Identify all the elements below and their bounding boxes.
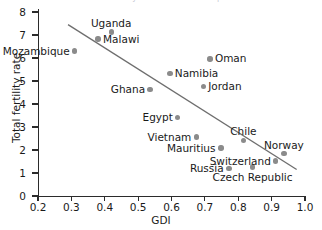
data-point (218, 145, 223, 150)
y-tick (32, 149, 38, 150)
data-point-label: Vietnam (148, 132, 192, 143)
data-point-label: Oman (215, 53, 247, 64)
data-point (167, 71, 172, 76)
data-point-label: Jordan (208, 81, 241, 92)
data-point (147, 87, 152, 92)
data-point (207, 56, 212, 61)
data-point-label: Malawi (103, 34, 139, 45)
y-tick (32, 57, 38, 58)
data-point (72, 48, 77, 53)
data-point-label: Ghana (111, 84, 145, 95)
x-axis-title: GDI (0, 214, 322, 226)
x-tick-label: 0.6 (154, 202, 190, 213)
data-point-label: Mozambique (3, 46, 70, 57)
data-point (273, 158, 278, 163)
y-tick (32, 11, 38, 12)
data-point (281, 151, 286, 156)
chart-title: Global Fertility and Gender Development (0, 0, 322, 2)
x-tick-label: 0.4 (87, 202, 123, 213)
x-tick-label: 0.5 (120, 202, 156, 213)
data-point-label: Egypt (143, 112, 173, 123)
y-tick-label: 0 (6, 191, 26, 202)
y-tick (32, 80, 38, 81)
data-point-label: Czech Republic (213, 172, 293, 183)
data-point-label: Chile (230, 126, 256, 137)
x-tick-label: 0.3 (53, 202, 89, 213)
x-tick-label: 0.7 (187, 202, 223, 213)
x-tick-label: 0.8 (220, 202, 256, 213)
scatter-chart: Global Fertility and Gender Development … (0, 0, 322, 230)
y-axis-line (38, 9, 39, 197)
data-point-label: Norway (264, 140, 304, 151)
y-tick (32, 103, 38, 104)
y-tick-label: 8 (6, 7, 26, 18)
y-tick-label: 1 (6, 168, 26, 179)
data-point (194, 134, 199, 139)
x-tick-label: 0.2 (20, 202, 56, 213)
y-tick (32, 34, 38, 35)
data-point (175, 115, 180, 120)
data-point-label: Switzerland (210, 156, 271, 167)
data-point (95, 36, 100, 41)
data-point (201, 84, 206, 89)
y-tick (32, 172, 38, 173)
data-point-label: Uganda (91, 18, 132, 29)
x-tick-label: 0.9 (254, 202, 290, 213)
data-point-label: Namibia (175, 68, 218, 79)
x-tick-label: 1.0 (287, 202, 322, 213)
data-point (241, 138, 246, 143)
y-tick (32, 126, 38, 127)
data-point-label: Mauritius (167, 143, 216, 154)
